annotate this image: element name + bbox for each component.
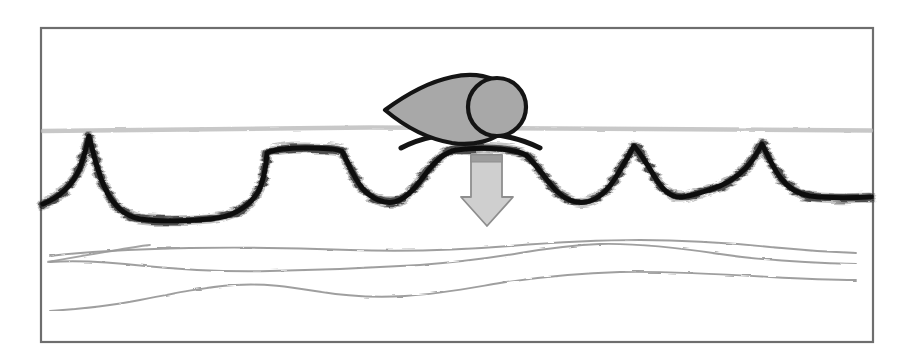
arrow-cap-band — [471, 155, 502, 162]
figure-root — [0, 0, 899, 361]
vessel-tow-body-circle — [468, 78, 526, 136]
seismic-profile-figure — [0, 0, 899, 361]
